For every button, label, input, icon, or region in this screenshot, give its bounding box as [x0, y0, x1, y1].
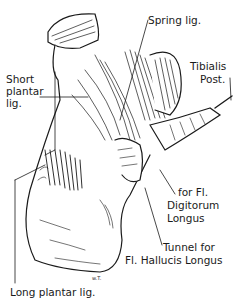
- label-tibialis-post-line1: Tibialis: [190, 60, 226, 72]
- label-fdl-line3: Longus: [167, 212, 205, 224]
- label-tibialis-post-line2: Post.: [200, 73, 225, 85]
- label-spring-lig: Spring lig.: [148, 14, 201, 26]
- label-short-plantar-line1: Short: [6, 73, 34, 85]
- label-tunnel-line1: Tunnel for: [163, 241, 215, 253]
- label-fdl-line2: Digitorum: [167, 199, 219, 211]
- label-fdl-line1: for Fl.: [178, 186, 208, 198]
- label-tunnel-line2: Fl. Hallucis Longus: [125, 254, 222, 266]
- label-long-plantar-lig: Long plantar lig.: [10, 286, 95, 298]
- anatomy-diagram: Spring lig. Tibialis Post. Short plantar…: [0, 0, 248, 303]
- label-short-plantar-line2: plantar: [6, 85, 44, 97]
- artist-signature: w.T.: [92, 272, 101, 284]
- label-short-plantar-line3: lig.: [6, 97, 22, 109]
